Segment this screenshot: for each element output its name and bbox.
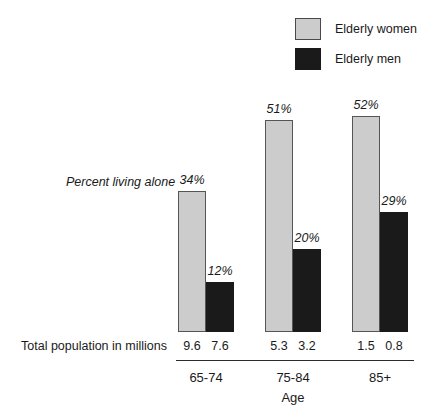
bar-women-85-plus (352, 116, 380, 332)
bar-value-women-85-plus: 52% (337, 99, 395, 112)
x-axis-line (176, 360, 414, 361)
population-men-85-plus: 0.8 (365, 340, 423, 353)
bar-men-65-74 (206, 282, 234, 332)
x-axis-title: Age (263, 391, 323, 404)
x-axis-tick-85-plus: 85+ (350, 371, 410, 384)
bar-chart: Elderly women Elderly men Percent living… (0, 0, 440, 417)
bar-value-men-85-plus: 29% (365, 195, 423, 208)
bar-value-women-65-74: 34% (163, 174, 221, 187)
x-axis-tick-75-84: 75-84 (263, 371, 323, 384)
population-men-75-84: 3.2 (278, 340, 336, 353)
plot-area: Percent living alone 34% 12% 51% 20% 52%… (0, 0, 440, 417)
population-row-label: Total population in millions (21, 340, 167, 353)
bar-value-men-65-74: 12% (191, 265, 249, 278)
bar-value-men-75-84: 20% (278, 232, 336, 245)
bar-men-85-plus (380, 212, 408, 332)
percent-row-label: Percent living alone (66, 176, 175, 189)
bar-women-65-74 (178, 191, 206, 332)
x-axis-tick-65-74: 65-74 (176, 371, 236, 384)
bar-men-75-84 (293, 249, 321, 332)
bar-value-women-75-84: 51% (250, 103, 308, 116)
population-men-65-74: 7.6 (191, 340, 249, 353)
bar-women-75-84 (265, 120, 293, 332)
